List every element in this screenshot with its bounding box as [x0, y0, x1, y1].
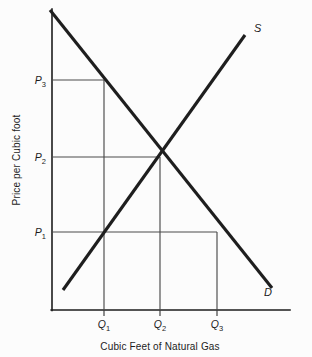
- supply-demand-chart: S D P3 P2 P1 Q1 Q2 Q3 Price per Cubic fo…: [0, 0, 312, 357]
- chart-canvas: S D P3 P2 P1 Q1 Q2 Q3 Price per Cubic fo…: [0, 0, 312, 357]
- y-axis-title: Price per Cubic foot: [11, 115, 22, 206]
- chart-background: [0, 0, 312, 357]
- supply-curve-label: S: [254, 22, 262, 34]
- demand-curve-label: D: [264, 286, 272, 298]
- x-axis-title: Cubic Feet of Natural Gas: [100, 341, 219, 352]
